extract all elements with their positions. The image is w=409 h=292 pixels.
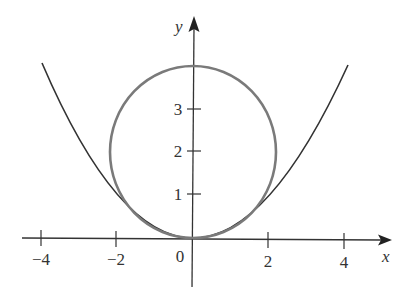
y-axis-label: y <box>173 17 183 36</box>
x-tick-label: 4 <box>340 253 349 272</box>
chart: −4 −2 0 2 4 1 2 3 x y <box>0 0 409 292</box>
origin-label: 0 <box>176 247 185 266</box>
y-tick-label: 1 <box>174 185 183 204</box>
x-tick-label: 2 <box>264 252 273 271</box>
y-ticks <box>187 109 201 194</box>
x-tick-label: −4 <box>32 250 51 269</box>
y-tick-label: 3 <box>174 100 183 119</box>
x-axis-label: x <box>381 247 390 266</box>
x-tick-label: −2 <box>107 250 125 269</box>
y-tick-label: 2 <box>174 142 183 161</box>
